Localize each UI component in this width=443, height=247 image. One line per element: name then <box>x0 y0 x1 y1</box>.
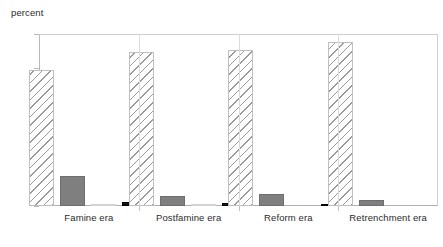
bar <box>191 204 216 206</box>
category-separator <box>338 34 339 206</box>
bar <box>129 52 154 206</box>
bar <box>328 42 353 206</box>
x-axis-category-label: Famine era <box>39 212 139 223</box>
bar-group <box>240 35 340 206</box>
bar <box>91 204 116 206</box>
x-axis-category-label: Reform era <box>239 212 339 223</box>
bar-group <box>40 35 140 206</box>
bar <box>60 176 85 206</box>
x-tick-mark <box>139 206 140 211</box>
bar-group <box>140 35 240 206</box>
bar-group <box>339 35 439 206</box>
bar <box>359 200 384 206</box>
x-axis-category-label: Retrenchment era <box>338 212 438 223</box>
category-separator <box>239 34 240 206</box>
y-tick-mark <box>34 206 39 207</box>
y-axis-title: percent <box>11 7 43 18</box>
category-separator <box>139 34 140 206</box>
x-axis-category-label: Postfamine era <box>139 212 239 223</box>
bar-chart: percent 020406080100 Famine eraPostfamin… <box>0 0 443 247</box>
x-tick-mark <box>239 206 240 211</box>
bar <box>160 196 185 206</box>
y-tick-mark <box>34 34 39 35</box>
bar <box>259 194 284 206</box>
bar <box>228 50 253 206</box>
x-tick-mark <box>338 206 339 211</box>
bar <box>29 70 54 206</box>
